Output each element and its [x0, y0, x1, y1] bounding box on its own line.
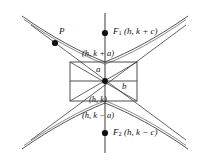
semi-axis-a-label: a [96, 65, 101, 74]
hyperbola-diagram-svg [0, 0, 209, 165]
point-p-marker [52, 40, 58, 46]
focus-1-point [102, 30, 108, 36]
center-point [102, 78, 108, 84]
focus-1-label: F1 (h, k + c) [113, 27, 158, 37]
focus-2-coordinates: (h, k − c) [124, 127, 158, 137]
focus-2-label: F2 (h, k − c) [113, 128, 158, 138]
vertex-top-label: (h, k + a) [82, 49, 114, 58]
center-label: (h, k) [89, 95, 107, 104]
point-p-label: P [59, 27, 65, 36]
semi-axis-b-label: b [122, 82, 127, 91]
focus-1-subscript: 1 [119, 29, 122, 36]
vertex-bottom-label: (h, k − a) [82, 111, 114, 120]
focus-1-coordinates: (h, k + c) [124, 26, 158, 36]
focus-2-subscript: 2 [119, 130, 122, 137]
focus-2-point [102, 130, 108, 136]
hyperbola-figure: P F1 (h, k + c) (h, k + a) a b (h, k) (h… [0, 0, 209, 165]
